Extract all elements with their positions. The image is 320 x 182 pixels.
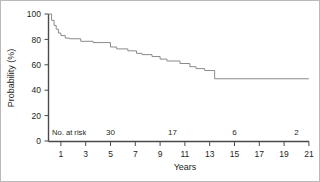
survival-chart-figure: 100 80 60 40 20 0 Probability (%) 1 3 (0, 0, 320, 182)
at-risk-value: 6 (232, 128, 237, 137)
y-tick-label: 60 (32, 60, 42, 70)
x-tick-label: 1 (59, 149, 64, 159)
x-tick-label: 7 (133, 149, 138, 159)
x-tick-label: 11 (180, 149, 189, 159)
at-risk-value: 17 (168, 128, 177, 137)
x-tick-label: 15 (230, 149, 240, 159)
x-tick-label: 17 (255, 149, 265, 159)
x-axis-title: Years (174, 162, 197, 172)
y-tick-label: 0 (36, 136, 41, 146)
x-tick-label: 21 (304, 149, 314, 159)
y-axis-tick-labels: 100 80 60 40 20 0 (27, 9, 41, 146)
x-tick-label: 13 (205, 149, 215, 159)
y-axis-title: Probability (%) (6, 49, 16, 108)
x-tick-label: 19 (279, 149, 289, 159)
at-risk-label: No. at risk (52, 128, 86, 137)
y-tick-label: 100 (27, 9, 41, 19)
x-tick-label: 5 (108, 149, 113, 159)
at-risk-value: 2 (294, 128, 299, 137)
y-tick-label: 80 (32, 35, 42, 45)
y-tick-label: 40 (32, 85, 42, 95)
at-risk-values: 30 17 6 2 (106, 128, 299, 137)
at-risk-value: 30 (106, 128, 115, 137)
x-tick-label: 9 (158, 149, 163, 159)
survival-plot: 100 80 60 40 20 0 Probability (%) 1 3 (1, 1, 320, 182)
survival-step-curve (49, 14, 309, 79)
y-tick-label: 20 (32, 111, 42, 121)
x-axis-tick-labels: 1 3 5 7 9 11 13 15 17 19 21 (59, 149, 314, 159)
x-tick-label: 3 (83, 149, 88, 159)
